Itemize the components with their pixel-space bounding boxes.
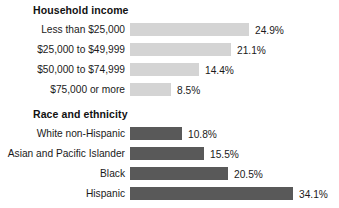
bar-hispanic — [130, 187, 293, 200]
bar-value-label: 8.5% — [177, 84, 200, 97]
bar-value-label: 20.5% — [234, 168, 263, 181]
bar-chart: Household income Less than $25,000 24.9%… — [0, 0, 339, 208]
bar-container: 21.1% — [130, 43, 231, 56]
bar-value-label: 10.8% — [188, 128, 217, 141]
bar-container: 10.8% — [130, 127, 182, 140]
bar-category-label: Black — [0, 167, 125, 180]
bar-container: 14.4% — [130, 63, 199, 76]
group-title-race-and-ethnicity: Race and ethnicity — [33, 108, 128, 120]
bar-container: 34.1% — [130, 187, 293, 200]
bar-row: $75,000 or more 8.5% — [0, 81, 339, 101]
bar-black — [130, 167, 228, 180]
bar-container: 15.5% — [130, 147, 204, 160]
bar-category-label: White non-Hispanic — [0, 127, 125, 140]
bar-container: 20.5% — [130, 167, 228, 180]
bar-row: Asian and Pacific Islander 15.5% — [0, 145, 339, 165]
bar-row: $50,000 to $74,999 14.4% — [0, 61, 339, 81]
bar-rows-race-and-ethnicity: White non-Hispanic 10.8% Asian and Pacif… — [0, 125, 339, 205]
bar-row: White non-Hispanic 10.8% — [0, 125, 339, 145]
bar-value-label: 15.5% — [210, 148, 239, 161]
bar-value-label: 34.1% — [299, 188, 328, 201]
bar-asian-and-pacific-islander — [130, 147, 204, 160]
bar-row: Black 20.5% — [0, 165, 339, 185]
bar-less-than-25000 — [130, 23, 249, 36]
bar-75000-or-more — [130, 83, 171, 96]
bar-category-label: Asian and Pacific Islander — [0, 147, 125, 160]
bar-category-label: $75,000 or more — [0, 83, 125, 96]
bar-row: Less than $25,000 24.9% — [0, 21, 339, 41]
bar-category-label: Hispanic — [0, 187, 125, 200]
bar-container: 8.5% — [130, 83, 171, 96]
bar-container: 24.9% — [130, 23, 249, 36]
group-title-household-income: Household income — [33, 4, 129, 16]
bar-rows-household-income: Less than $25,000 24.9% $25,000 to $49,9… — [0, 21, 339, 101]
bar-category-label: $25,000 to $49,999 — [0, 43, 125, 56]
bar-25000-to-49999 — [130, 43, 231, 56]
bar-row: $25,000 to $49,999 21.1% — [0, 41, 339, 61]
bar-category-label: Less than $25,000 — [0, 23, 125, 36]
bar-white-non-hispanic — [130, 127, 182, 140]
bar-50000-to-74999 — [130, 63, 199, 76]
bar-value-label: 21.1% — [237, 44, 266, 57]
bar-category-label: $50,000 to $74,999 — [0, 63, 125, 76]
bar-value-label: 24.9% — [255, 24, 284, 37]
bar-value-label: 14.4% — [205, 64, 234, 77]
bar-row: Hispanic 34.1% — [0, 185, 339, 205]
